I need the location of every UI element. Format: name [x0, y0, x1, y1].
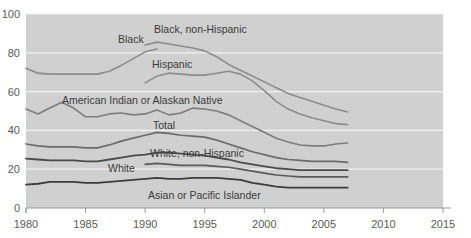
x-tick-label-2005: 2005: [312, 218, 336, 230]
series-label-american-indian-or-alaskan-native: American Indian or Alaskan Native: [62, 94, 223, 106]
axes: [26, 208, 451, 213]
y-tick-label-20: 20: [8, 163, 20, 175]
x-tick-label-1995: 1995: [192, 218, 216, 230]
series-label-total: Total: [153, 119, 175, 131]
y-tick-label-0: 0: [14, 202, 20, 214]
y-axis-tick-labels: 020406080100: [2, 8, 20, 214]
x-tick-label-2015: 2015: [431, 218, 455, 230]
x-tick-label-2000: 2000: [252, 218, 276, 230]
x-tick-label-1985: 1985: [73, 218, 97, 230]
series-label-black: Black: [118, 33, 144, 45]
y-tick-label-100: 100: [2, 8, 20, 20]
chart-container: 020406080100 198019851990199520002005201…: [0, 0, 471, 238]
series-label-asian-or-pacific-islander: Asian or Pacific Islander: [148, 189, 261, 201]
series-label-hispanic: Hispanic: [152, 58, 192, 70]
series-label-black-non-hispanic: Black, non-Hispanic: [154, 23, 247, 35]
y-tick-label-80: 80: [8, 47, 20, 59]
y-tick-label-40: 40: [8, 124, 20, 136]
x-axis-tick-labels: 19801985199019952000200520102015: [14, 218, 455, 230]
series-label-white-non-hispanic: White, non-Hispanic: [150, 147, 244, 159]
series-label-white: White: [108, 162, 135, 174]
x-tick-label-1990: 1990: [133, 218, 157, 230]
x-tick-label-1980: 1980: [14, 218, 38, 230]
line-chart: 020406080100 198019851990199520002005201…: [0, 0, 471, 238]
y-tick-label-60: 60: [8, 86, 20, 98]
x-tick-label-2010: 2010: [371, 218, 395, 230]
